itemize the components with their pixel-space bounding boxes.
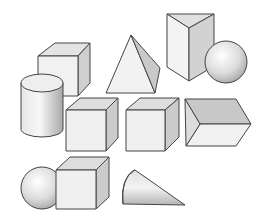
figure-canvas xyxy=(0,0,270,220)
geometric-solids-figure xyxy=(0,0,270,220)
pyramid xyxy=(106,35,160,93)
cube-middle-right xyxy=(126,98,179,151)
sphere-top-right xyxy=(205,41,247,83)
cone xyxy=(123,170,186,205)
cube-middle-left xyxy=(66,98,118,151)
hexagonal-prism xyxy=(185,99,251,146)
cylinder xyxy=(21,74,63,137)
cube-bottom xyxy=(56,157,109,209)
